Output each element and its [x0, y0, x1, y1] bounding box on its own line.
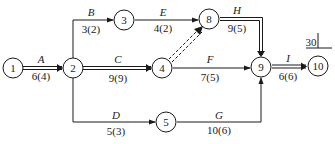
arrow-dummy-4-8	[169, 26, 203, 62]
node-8-label: 8	[206, 14, 212, 25]
activity-e-name: E	[160, 7, 167, 18]
node-9-label: 9	[258, 62, 264, 73]
activity-g-duration: 10(6)	[207, 125, 231, 136]
activity-b-duration: 3(2)	[82, 24, 100, 35]
total-duration: 30	[306, 37, 317, 48]
activity-i-duration: 6(6)	[279, 71, 297, 82]
node-2-label: 2	[70, 63, 76, 74]
activity-h-duration: 9(5)	[228, 23, 246, 34]
activity-f-name: F	[207, 54, 214, 65]
activity-c-name: C	[114, 54, 121, 65]
node-3-label: 3	[121, 15, 127, 26]
node-10-label: 10	[313, 61, 324, 72]
activity-c-duration: 9(9)	[109, 73, 127, 84]
node-4-label: 4	[159, 63, 165, 74]
activity-g-name: G	[215, 110, 223, 121]
activity-d-name: D	[112, 110, 120, 121]
activity-a-name: A	[38, 54, 45, 65]
activity-d-duration: 5(3)	[107, 126, 125, 137]
node-5-label: 5	[163, 117, 169, 128]
node-1-label: 1	[10, 63, 16, 74]
activity-h-name: H	[233, 5, 241, 16]
activity-i-name: I	[286, 53, 290, 64]
activity-e-duration: 4(2)	[154, 23, 172, 34]
activity-a-duration: 6(4)	[32, 71, 50, 82]
activity-b-name: B	[88, 7, 95, 18]
activity-f-duration: 7(5)	[201, 72, 219, 83]
